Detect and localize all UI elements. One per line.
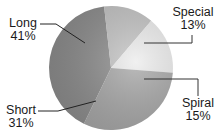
label-short-name: Short — [6, 103, 36, 117]
label-spiral-name: Spiral — [182, 96, 214, 110]
label-special-name: Special — [173, 5, 214, 19]
label-spiral: Spiral 15% — [180, 97, 216, 123]
label-long: Long 41% — [6, 17, 40, 43]
label-short-pct: 31% — [4, 117, 38, 130]
label-short: Short 31% — [4, 104, 38, 130]
label-spiral-pct: 15% — [180, 110, 216, 123]
label-special-pct: 13% — [170, 19, 216, 32]
label-long-pct: 41% — [6, 30, 40, 43]
label-long-name: Long — [9, 16, 37, 30]
pie-shading — [49, 6, 173, 130]
label-special: Special 13% — [170, 6, 216, 32]
